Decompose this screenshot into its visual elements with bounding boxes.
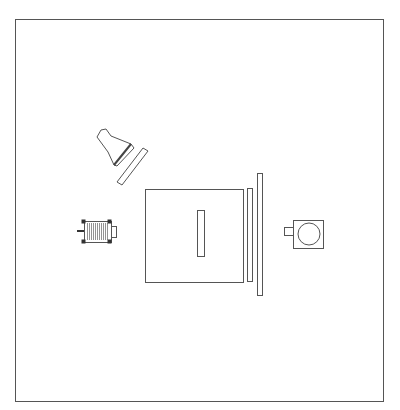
- inner-screen-strip: [248, 189, 253, 282]
- camera-lens: [298, 223, 320, 245]
- motor-coils: [88, 223, 108, 240]
- main-enclosure: [146, 190, 244, 283]
- motor-flange-tl: [82, 220, 85, 223]
- inner-slot: [198, 211, 205, 257]
- outer-screen-bar: [258, 174, 263, 296]
- motor-end-cap: [112, 227, 117, 238]
- camera-icon: [285, 221, 324, 249]
- layout-diagram: [0, 0, 400, 410]
- camera-nub: [285, 228, 294, 236]
- motor-flange-tr: [108, 220, 111, 223]
- motor-flange-br: [108, 240, 111, 243]
- angled-panel: [117, 148, 148, 185]
- motor-icon: [77, 220, 117, 243]
- motor-flange-bl: [82, 240, 85, 243]
